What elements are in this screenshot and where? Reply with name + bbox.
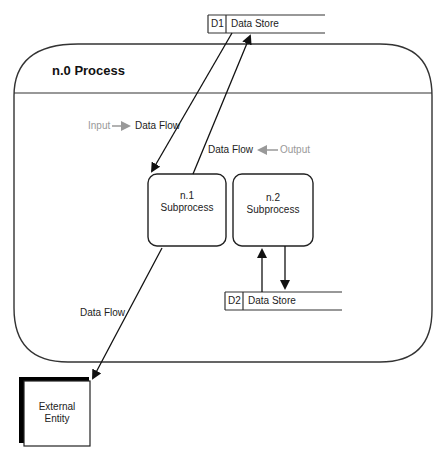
- data-store-d2-id: D2: [228, 296, 241, 306]
- input-legend-label: Input: [88, 121, 110, 131]
- external-entity-line2: Entity: [44, 413, 69, 426]
- subprocess-n2: n.2 Subprocess: [233, 192, 313, 216]
- data-store-d1-label: Data Store: [231, 19, 279, 29]
- subprocess-n2-label: Subprocess: [247, 204, 300, 217]
- data-store-d1-id: D1: [211, 19, 224, 29]
- input-flow-label: Data Flow: [135, 121, 180, 131]
- external-entity: External Entity: [24, 400, 90, 426]
- process-title: n.0 Process: [52, 64, 125, 77]
- external-flow-label: Data Flow: [80, 308, 125, 318]
- subprocess-n1-number: n.1: [180, 190, 194, 203]
- subprocess-n1: n.1 Subprocess: [148, 190, 226, 214]
- output-flow-label: Data Flow: [208, 145, 253, 155]
- output-legend-label: Output: [280, 145, 310, 155]
- data-store-d2-label: Data Store: [248, 296, 296, 306]
- subprocess-n1-label: Subprocess: [161, 202, 214, 215]
- subprocess-n2-number: n.2: [266, 192, 280, 205]
- external-entity-line1: External: [39, 401, 76, 414]
